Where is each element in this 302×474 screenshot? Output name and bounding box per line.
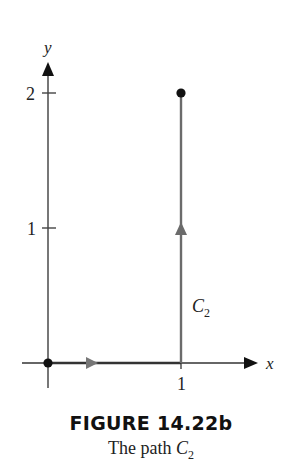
figure-caption: The path C2	[0, 438, 302, 463]
y-axis-arrow-icon	[42, 62, 54, 76]
end-point	[176, 88, 185, 97]
start-point	[43, 358, 52, 367]
figure-title: FIGURE 14.22b	[0, 412, 302, 434]
x-tick-label-1: 1	[177, 374, 186, 394]
y-axis-label: y	[42, 38, 52, 57]
y-tick-label-2: 2	[26, 84, 35, 104]
x-axis-label: x	[265, 354, 274, 373]
direction-arrow-right-icon	[86, 357, 98, 369]
direction-arrow-up-icon	[175, 222, 187, 235]
path-diagram: y x 2 1 1 C2	[0, 0, 302, 400]
x-axis-arrow-icon	[244, 357, 258, 369]
y-tick-label-1: 1	[27, 219, 36, 239]
path-label: C2	[192, 296, 210, 320]
